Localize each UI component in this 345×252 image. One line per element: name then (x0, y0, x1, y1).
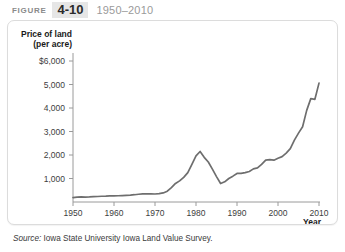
y-axis-ticks (69, 61, 73, 179)
y-tick-label-2000: 2,000 (44, 150, 66, 160)
x-axis-tick-labels: 1950 1960 1970 1980 1990 2000 2010 (64, 208, 329, 218)
y-axis-title-line2: (per acre) (33, 39, 72, 49)
chart-panel: Price of land (per acre) $6,000 5,000 4,… (7, 20, 338, 225)
x-tick-label-1980: 1980 (187, 208, 206, 218)
source-bar: Source: Iowa State University Iowa Land … (7, 229, 338, 247)
x-tick-label-1970: 1970 (146, 208, 165, 218)
line-chart: Price of land (per acre) $6,000 5,000 4,… (8, 21, 338, 225)
figure-container: FIGURE 4-10 1950–2010 Price of land (per… (0, 0, 345, 252)
figure-number-badge: 4-10 (52, 2, 88, 18)
x-axis-ticks (73, 202, 319, 206)
y-tick-label-6000: $6,000 (39, 56, 65, 66)
y-axis-title-line1: Price of land (21, 29, 72, 39)
figure-header: FIGURE 4-10 1950–2010 (0, 0, 345, 20)
figure-word-label: FIGURE (12, 6, 46, 15)
y-tick-label-4000: 4,000 (44, 103, 66, 113)
source-value: Iowa State University Iowa Land Value Su… (41, 234, 212, 243)
x-axis-title: Year (303, 217, 322, 225)
y-tick-label-1000: 1,000 (44, 174, 66, 184)
x-tick-label-1960: 1960 (105, 208, 124, 218)
y-tick-label-3000: 3,000 (44, 127, 66, 137)
source-note: Source: Iowa State University Iowa Land … (13, 234, 212, 243)
x-tick-label-1950: 1950 (64, 208, 83, 218)
y-axis-tick-labels: $6,000 5,000 4,000 3,000 2,000 1,000 (39, 56, 65, 184)
source-label: Source: (13, 234, 41, 243)
x-tick-label-2000: 2000 (269, 208, 288, 218)
figure-year-range: 1950–2010 (96, 4, 153, 16)
x-tick-label-1990: 1990 (228, 208, 247, 218)
y-tick-label-5000: 5,000 (44, 80, 66, 90)
data-line-series (73, 83, 319, 197)
